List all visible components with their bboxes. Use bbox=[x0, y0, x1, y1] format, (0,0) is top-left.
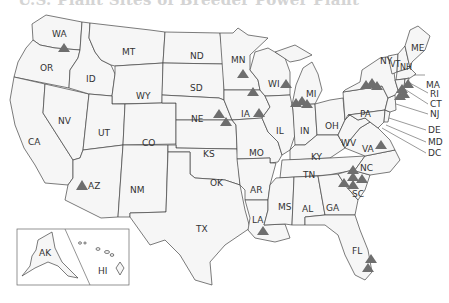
label-nc: NC bbox=[360, 163, 373, 173]
label-mn: MN bbox=[231, 55, 246, 65]
label-mt: MT bbox=[122, 47, 136, 57]
label-co: CO bbox=[142, 138, 155, 148]
label-de: DE bbox=[428, 125, 441, 135]
label-wv: WV bbox=[341, 138, 357, 148]
label-ms: MS bbox=[278, 202, 292, 212]
label-ok: OK bbox=[210, 178, 224, 188]
label-vt: VT bbox=[390, 60, 400, 69]
label-ri: RI bbox=[430, 89, 439, 99]
label-al: AL bbox=[302, 204, 313, 214]
label-mo: MO bbox=[249, 148, 264, 158]
label-me: ME bbox=[411, 43, 425, 53]
label-ar: AR bbox=[250, 185, 262, 195]
label-md: MD bbox=[428, 137, 443, 147]
label-la: LA bbox=[252, 215, 264, 225]
label-fl: FL bbox=[352, 246, 362, 256]
label-va: VA bbox=[362, 144, 375, 154]
label-or: OR bbox=[40, 63, 53, 73]
label-nj: NJ bbox=[430, 109, 439, 119]
label-tx: TX bbox=[195, 224, 208, 234]
label-wi: WI bbox=[268, 79, 280, 89]
label-ky: KY bbox=[311, 152, 323, 162]
label-tn: TN bbox=[302, 170, 315, 180]
label-ut: UT bbox=[98, 128, 111, 138]
label-nv: NV bbox=[58, 116, 72, 126]
footer-cropped-text-1 bbox=[12, 296, 52, 303]
us-map: WA OR CA NV ID MT WY UT AZ CO NM ND SD N… bbox=[0, 0, 449, 303]
label-oh: OH bbox=[325, 121, 339, 131]
label-sc: SC bbox=[352, 189, 364, 199]
label-mi: MI bbox=[306, 89, 316, 99]
label-ct: CT bbox=[430, 99, 442, 109]
label-nh: NH bbox=[400, 63, 412, 72]
label-pa: PA bbox=[360, 109, 372, 119]
label-id: ID bbox=[86, 74, 96, 84]
label-in: IN bbox=[300, 126, 309, 136]
label-hi: HI bbox=[98, 266, 107, 276]
label-nm: NM bbox=[130, 185, 145, 195]
state-mt[interactable] bbox=[89, 23, 165, 66]
label-wa: WA bbox=[52, 29, 67, 39]
label-wy: WY bbox=[136, 91, 151, 101]
label-ga: GA bbox=[326, 203, 340, 213]
label-ia: IA bbox=[241, 109, 251, 119]
state-sd[interactable] bbox=[162, 63, 224, 100]
label-sd: SD bbox=[190, 83, 203, 93]
label-il: IL bbox=[276, 126, 284, 136]
state-nm[interactable] bbox=[118, 145, 168, 217]
label-dc: DC bbox=[428, 148, 441, 158]
label-ak: AK bbox=[39, 248, 52, 258]
label-az: AZ bbox=[88, 181, 100, 191]
label-ne: NE bbox=[191, 114, 204, 124]
label-nd: ND bbox=[190, 51, 204, 61]
label-ca: CA bbox=[28, 137, 41, 147]
label-ks: KS bbox=[203, 149, 215, 159]
